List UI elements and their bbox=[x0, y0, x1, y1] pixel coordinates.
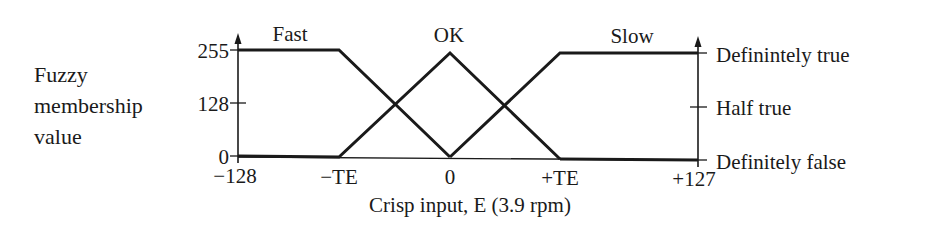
y-axis-title: Fuzzy membership value bbox=[34, 62, 143, 149]
x-tick-label-neg-te: −TE bbox=[320, 165, 358, 189]
left-axis-arrow-icon bbox=[235, 33, 242, 44]
set-label-slow: Slow bbox=[610, 24, 654, 48]
set-label-fast: Fast bbox=[272, 22, 307, 46]
curve-baseline-right bbox=[560, 159, 698, 160]
right-label-definitely-false: Definitely false bbox=[716, 150, 846, 174]
right-axis bbox=[690, 36, 707, 167]
y-tick-label-255: 255 bbox=[198, 39, 230, 63]
curve-fast bbox=[238, 50, 450, 157]
set-label-ok: OK bbox=[434, 23, 464, 47]
curve-slow bbox=[450, 53, 698, 157]
x-tick-label-max: +127 bbox=[672, 167, 715, 191]
fuzzy-membership-diagram: Fuzzy membership value 255 128 0 Definin… bbox=[0, 0, 925, 243]
right-label-definitely-true: Definintely true bbox=[716, 43, 850, 67]
x-tick-label-pos-te: +TE bbox=[541, 166, 579, 190]
y-axis-title-line-1: Fuzzy bbox=[34, 62, 88, 87]
left-axis bbox=[230, 33, 246, 163]
x-tick-label-zero: 0 bbox=[445, 165, 456, 189]
right-axis-arrow-icon bbox=[695, 36, 702, 47]
y-axis-title-line-2: membership bbox=[34, 93, 143, 118]
x-axis-title: Crisp input, E (3.9 rpm) bbox=[369, 193, 571, 217]
y-axis-title-line-3: value bbox=[34, 124, 82, 149]
right-label-half-true: Half true bbox=[716, 96, 791, 120]
y-tick-label-128: 128 bbox=[198, 92, 230, 116]
membership-curves bbox=[238, 50, 698, 160]
x-tick-label-min: −128 bbox=[213, 164, 256, 188]
